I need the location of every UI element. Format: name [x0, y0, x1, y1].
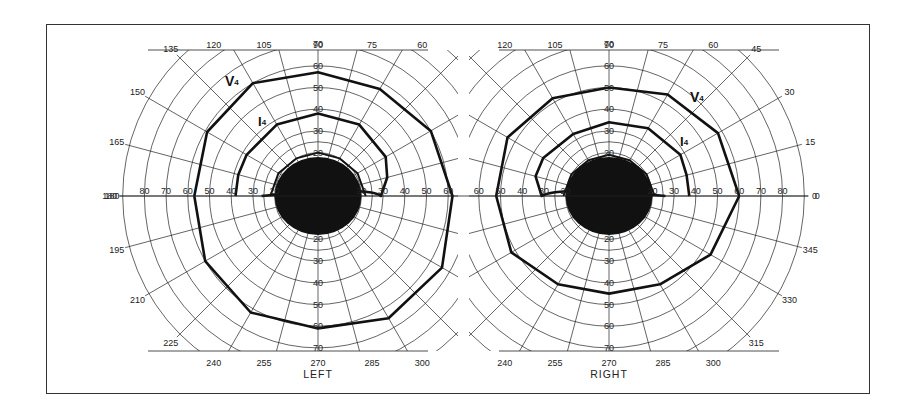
svg-text:50: 50: [495, 186, 505, 196]
visual-field-chart: 2020303040405050606070708070606050504040…: [0, 0, 918, 419]
svg-text:30: 30: [669, 186, 679, 196]
meridian-label: 105: [257, 40, 272, 50]
isopter-label-v4: V4: [690, 89, 704, 105]
svg-text:20: 20: [647, 186, 657, 196]
svg-text:60: 60: [443, 186, 453, 196]
svg-text:20: 20: [313, 148, 323, 158]
svg-text:40: 40: [691, 186, 701, 196]
meridian-label: 15: [805, 137, 815, 147]
meridian-label: 75: [367, 40, 377, 50]
left-eye-field: 2020303040405050606070708070606050504040…: [102, 0, 517, 396]
meridian-label: 135: [163, 44, 178, 54]
svg-text:20: 20: [270, 186, 280, 196]
svg-text:20: 20: [356, 186, 366, 196]
svg-text:80: 80: [778, 186, 788, 196]
left-eye-label: LEFT: [303, 368, 333, 380]
meridian-label: 30: [784, 87, 794, 97]
svg-text:50: 50: [313, 300, 323, 310]
svg-text:60: 60: [604, 321, 614, 331]
isopter-label-i4: I4: [680, 134, 689, 149]
isopter-label-i4: I4: [258, 114, 267, 129]
svg-text:50: 50: [604, 300, 614, 310]
meridian-label: 165: [109, 137, 124, 147]
svg-text:50: 50: [421, 186, 431, 196]
svg-text:20: 20: [561, 186, 571, 196]
svg-text:60: 60: [183, 186, 193, 196]
meridian-label: 285: [655, 358, 670, 368]
meridian-label: 150: [130, 87, 145, 97]
meridian-label: 90: [313, 40, 323, 50]
svg-text:30: 30: [248, 186, 258, 196]
svg-text:0: 0: [812, 191, 817, 201]
svg-text:40: 40: [313, 104, 323, 114]
meridian-label: 315: [749, 338, 764, 348]
meridian-label: 120: [206, 40, 221, 50]
svg-text:40: 40: [226, 186, 236, 196]
svg-text:60: 60: [734, 186, 744, 196]
meridian-label: 240: [206, 358, 221, 368]
svg-text:30: 30: [378, 186, 388, 196]
svg-text:20: 20: [604, 234, 614, 244]
svg-text:70: 70: [756, 186, 766, 196]
svg-text:30: 30: [313, 256, 323, 266]
meridian-label: 75: [658, 40, 668, 50]
svg-text:60: 60: [313, 61, 323, 71]
meridian-label: 60: [708, 40, 718, 50]
svg-text:50: 50: [313, 83, 323, 93]
meridian-label: 345: [803, 245, 818, 255]
svg-text:70: 70: [313, 343, 323, 353]
meridian-label: 300: [706, 358, 721, 368]
meridian-label: 45: [751, 44, 761, 54]
meridian-label: 255: [548, 358, 563, 368]
meridian-label: 105: [548, 40, 563, 50]
meridian-label: 120: [497, 40, 512, 50]
svg-text:20: 20: [604, 148, 614, 158]
right-eye-field: 2020303040405050606070708070606050504040…: [409, 0, 819, 396]
svg-text:40: 40: [604, 278, 614, 288]
svg-text:40: 40: [400, 186, 410, 196]
right-eye-label: RIGHT: [590, 368, 628, 380]
svg-text:70: 70: [161, 186, 171, 196]
svg-text:60: 60: [313, 321, 323, 331]
meridian-label: 285: [364, 358, 379, 368]
svg-text:30: 30: [604, 256, 614, 266]
meridian-label: 210: [130, 295, 145, 305]
meridian-label: 225: [163, 338, 178, 348]
meridian-label: 90: [604, 40, 614, 50]
svg-text:80: 80: [139, 186, 149, 196]
svg-text:180: 180: [104, 191, 119, 201]
meridian-label: 270: [310, 358, 325, 368]
svg-text:40: 40: [313, 278, 323, 288]
meridian-label: 195: [109, 245, 124, 255]
svg-text:50: 50: [204, 186, 214, 196]
meridian-label: 60: [417, 40, 427, 50]
meridian-label: 330: [782, 295, 797, 305]
svg-text:30: 30: [539, 186, 549, 196]
isopter-label-v4: V4: [225, 73, 239, 89]
meridian-label: 240: [497, 358, 512, 368]
svg-text:60: 60: [474, 186, 484, 196]
meridian-label: 300: [415, 358, 430, 368]
svg-text:40: 40: [517, 186, 527, 196]
meridian-label: 270: [601, 358, 616, 368]
svg-text:20: 20: [313, 234, 323, 244]
svg-text:60: 60: [604, 61, 614, 71]
svg-text:50: 50: [712, 186, 722, 196]
svg-text:30: 30: [313, 126, 323, 136]
svg-text:40: 40: [604, 104, 614, 114]
meridian-label: 255: [257, 358, 272, 368]
svg-text:30: 30: [604, 126, 614, 136]
svg-text:70: 70: [604, 343, 614, 353]
svg-text:50: 50: [604, 83, 614, 93]
